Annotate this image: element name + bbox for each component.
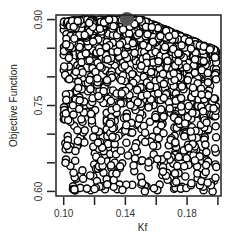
data-point <box>142 129 149 136</box>
data-point <box>198 91 205 98</box>
data-point <box>91 126 98 133</box>
data-point <box>191 157 198 164</box>
data-point <box>166 33 173 40</box>
data-point <box>81 31 88 38</box>
data-point <box>139 179 146 186</box>
y-tick-label: 0.60 <box>33 181 44 201</box>
data-point <box>206 46 213 53</box>
data-point <box>213 76 220 83</box>
data-point <box>70 169 77 176</box>
data-point <box>148 69 155 76</box>
data-point <box>186 38 193 45</box>
data-point <box>160 113 167 120</box>
data-point <box>204 79 211 86</box>
data-point <box>94 139 101 146</box>
data-point <box>72 147 79 154</box>
data-point <box>113 170 120 177</box>
data-point <box>178 95 185 102</box>
x-axis: 0.100.140.18 <box>54 197 218 219</box>
data-point <box>141 188 148 195</box>
data-point <box>75 84 82 91</box>
data-point <box>86 76 93 83</box>
data-point <box>65 54 72 61</box>
data-point <box>129 129 136 136</box>
data-point <box>202 141 209 148</box>
data-point <box>74 127 81 134</box>
data-point <box>132 144 139 151</box>
data-point <box>117 163 124 170</box>
data-point <box>121 51 128 58</box>
data-point <box>87 172 94 179</box>
data-point <box>189 84 196 91</box>
data-point <box>203 149 210 156</box>
data-point <box>150 142 157 149</box>
data-point <box>136 115 143 122</box>
data-point <box>145 159 152 166</box>
data-point <box>63 142 70 149</box>
data-point <box>140 41 147 48</box>
data-point <box>114 48 121 55</box>
data-point <box>174 162 181 169</box>
data-point <box>94 75 101 82</box>
data-point <box>113 104 120 111</box>
data-point <box>187 128 194 135</box>
x-tick-label: 0.10 <box>54 208 74 219</box>
data-point <box>172 139 179 146</box>
data-point <box>118 90 125 97</box>
data-point <box>212 123 219 130</box>
data-point <box>140 122 147 129</box>
data-point <box>130 162 137 169</box>
data-point <box>136 30 143 37</box>
data-point <box>123 122 130 129</box>
data-point <box>95 92 102 99</box>
data-point <box>160 130 167 137</box>
data-point <box>210 105 217 112</box>
data-point <box>173 178 180 185</box>
data-point <box>189 109 196 116</box>
data-point <box>162 43 169 50</box>
data-point <box>203 162 210 169</box>
data-point <box>171 170 178 177</box>
data-point <box>129 71 136 78</box>
data-point <box>107 162 114 169</box>
data-point <box>109 133 116 140</box>
data-point <box>211 145 218 152</box>
data-point <box>181 163 188 170</box>
data-point <box>212 174 219 181</box>
scatter-chart: 0.100.140.18 0.600.750.90 Kf Objective F… <box>0 0 234 244</box>
data-point <box>158 122 165 129</box>
data-point <box>81 127 88 134</box>
data-point <box>175 50 182 57</box>
x-tick-label: 0.18 <box>177 208 197 219</box>
data-point <box>96 25 103 32</box>
data-point <box>129 40 136 47</box>
data-point <box>185 144 192 151</box>
x-tick-label: 0.14 <box>116 208 136 219</box>
data-point <box>63 41 70 48</box>
highlight-point <box>120 12 134 26</box>
data-point <box>191 56 198 63</box>
data-point <box>124 152 131 159</box>
data-point <box>104 181 111 188</box>
data-point <box>106 16 113 23</box>
data-point <box>82 50 89 57</box>
data-point <box>110 23 117 30</box>
data-point <box>123 114 130 121</box>
data-point <box>97 63 104 70</box>
data-point <box>116 41 123 48</box>
data-point <box>80 175 87 182</box>
data-point <box>182 173 189 180</box>
data-point <box>145 104 152 111</box>
data-point <box>211 54 218 61</box>
data-point <box>131 155 138 162</box>
data-point <box>87 110 94 117</box>
data-point <box>120 26 127 33</box>
data-point <box>131 49 138 56</box>
data-point <box>119 186 126 193</box>
data-point <box>181 133 188 140</box>
data-point <box>107 97 114 104</box>
data-point <box>175 153 182 160</box>
y-tick-label: 0.90 <box>33 9 44 29</box>
data-point <box>183 64 190 71</box>
data-point <box>154 156 161 163</box>
